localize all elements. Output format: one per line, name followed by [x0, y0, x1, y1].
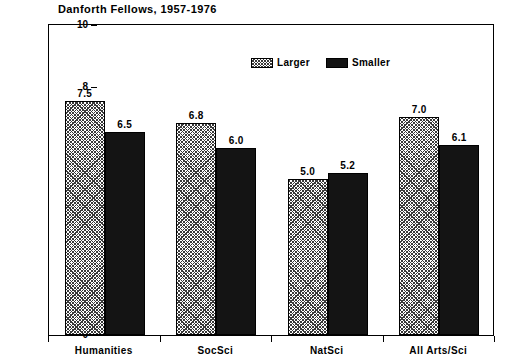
bar-natsci-smaller: 5.2 — [328, 173, 368, 335]
bar-value-label: 6.5 — [117, 119, 132, 130]
bar-value-label: 6.8 — [189, 110, 204, 121]
chart-title: Danforth Fellows, 1957-1976 — [58, 3, 217, 15]
x-axis-label-humanities: Humanities — [75, 345, 133, 356]
x-tick-mark — [383, 336, 384, 342]
bar-socsci-larger: 6.8 — [176, 123, 216, 335]
y-tick-0: 0 — [49, 335, 97, 336]
bar-all-arts-sci-larger: 7.0 — [399, 117, 439, 335]
x-axis-label-all-arts-sci: All Arts/Sci — [409, 345, 467, 356]
bar-socsci-smaller: 6.0 — [216, 148, 256, 335]
bar-humanities-smaller: 6.5 — [105, 132, 145, 335]
bar-chart: Danforth Fellows, 1957-1976 Median ETD 0… — [0, 0, 508, 362]
y-tick-mark — [91, 335, 97, 336]
x-tick-mark — [160, 336, 161, 342]
bar-value-label: 7.5 — [77, 88, 92, 99]
legend-swatch-larger-icon — [251, 58, 273, 68]
legend-entry-smaller: Smaller — [326, 57, 390, 68]
legend-swatch-smaller-icon — [326, 58, 348, 68]
plot-area: Median ETD 0 2 4 6 8 10 — [48, 24, 494, 336]
bar-natsci-larger: 5.0 — [288, 179, 328, 335]
bar-humanities-larger: 7.5 — [65, 101, 105, 335]
y-tick-label: 10 — [77, 18, 88, 31]
x-tick-mark — [48, 336, 49, 342]
x-tick-mark — [271, 336, 272, 342]
bar-all-arts-sci-smaller: 6.1 — [439, 145, 479, 335]
legend-entry-larger: Larger — [251, 57, 310, 68]
legend: Larger Smaller — [251, 57, 390, 68]
y-tick-10: 10 — [49, 25, 97, 26]
x-tick-mark — [494, 336, 495, 342]
x-axis-label-socsci: SocSci — [197, 345, 233, 356]
legend-label-smaller: Smaller — [352, 57, 390, 68]
legend-label-larger: Larger — [277, 57, 310, 68]
y-tick-mark — [91, 25, 97, 26]
bar-value-label: 7.0 — [412, 104, 427, 115]
bar-value-label: 6.1 — [452, 132, 467, 143]
bar-value-label: 5.2 — [340, 160, 355, 171]
x-axis-label-natsci: NatSci — [310, 345, 344, 356]
bar-value-label: 5.0 — [300, 166, 315, 177]
bar-value-label: 6.0 — [229, 135, 244, 146]
